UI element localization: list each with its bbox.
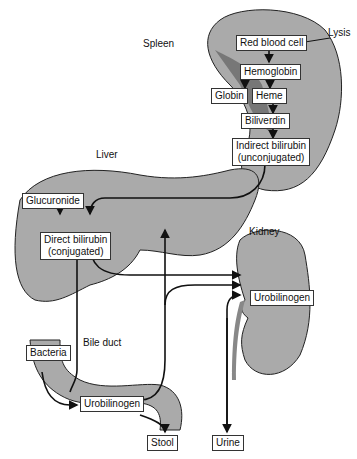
box-urine: Urine <box>212 435 244 451</box>
box-stool: Stool <box>147 435 178 451</box>
box-hemoglobin: Hemoglobin <box>240 64 301 80</box>
diagram-canvas <box>0 0 357 459</box>
indirect-line-2: (unconjugated) <box>236 152 306 164</box>
box-heme: Heme <box>252 88 287 104</box>
box-direct-bilirubin: Direct bilirubin (conjugated) <box>40 232 111 260</box>
box-glucuronide: Glucuronide <box>22 193 84 209</box>
box-urobilinogen-kidney: Urobilinogen <box>250 290 314 306</box>
indirect-line-1: Indirect bilirubin <box>236 140 306 152</box>
label-liver: Liver <box>96 149 118 160</box>
direct-line-1: Direct bilirubin <box>44 234 107 246</box>
box-biliverdin: Biliverdin <box>241 113 290 129</box>
box-red-blood-cell: Red blood cell <box>236 35 307 51</box>
box-bacteria: Bacteria <box>26 345 71 361</box>
box-urobilinogen-gut: Urobilinogen <box>80 396 144 412</box>
label-spleen: Spleen <box>143 38 174 49</box>
label-kidney: Kidney <box>249 226 280 237</box>
label-lysis: Lysis <box>328 27 350 38</box>
label-bile-duct: Bile duct <box>83 337 121 348</box>
box-globin: Globin <box>211 88 248 104</box>
box-indirect-bilirubin: Indirect bilirubin (unconjugated) <box>232 138 310 166</box>
direct-line-2: (conjugated) <box>44 246 107 258</box>
